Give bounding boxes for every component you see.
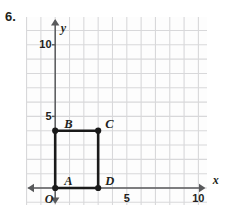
vertex-point-A [52,185,58,191]
axis-arrowhead-up [51,19,59,26]
vertex-point-D [95,185,101,191]
x-axis-label: x [213,174,219,186]
coordinate-grid-panel [26,17,207,205]
axis-arrowhead-left [28,184,35,192]
vertex-point-C [95,128,101,134]
worksheet-problem-figure: 6. yxO510510ABCD [0,0,227,209]
problem-number: 6. [5,10,16,23]
axis-arrowhead-down [51,198,59,205]
axis-arrowhead-right [199,184,206,192]
plot-layer [26,17,207,205]
vertex-point-B [52,128,58,134]
